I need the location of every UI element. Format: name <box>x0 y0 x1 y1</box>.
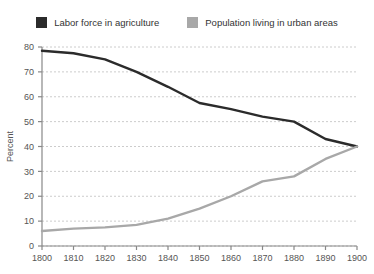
chart-container: Labor force in agriculture Population li… <box>0 0 374 274</box>
x-axis-tick-label: 1840 <box>158 253 178 263</box>
y-axis-tick-label: 20 <box>24 191 34 201</box>
x-axis-tick-label: 1860 <box>221 253 241 263</box>
data-series-line-labor-force <box>42 51 357 147</box>
y-axis-tick-label: 40 <box>24 142 34 152</box>
y-axis-tick-label: 70 <box>24 67 34 77</box>
x-axis-tick-label: 1830 <box>126 253 146 263</box>
x-axis-tick-label: 1800 <box>32 253 52 263</box>
x-axis-tick-label: 1820 <box>95 253 115 263</box>
y-axis-tick-label: 0 <box>29 241 34 251</box>
plot-area: 0102030405060708018001810182018301840185… <box>0 0 374 274</box>
y-axis-title: Percent <box>5 130 15 162</box>
x-axis-tick-label: 1850 <box>189 253 209 263</box>
y-axis-tick-label: 10 <box>24 216 34 226</box>
y-axis-tick-label: 60 <box>24 92 34 102</box>
x-axis-tick-label: 1870 <box>252 253 272 263</box>
x-axis-tick-label: 1810 <box>63 253 83 263</box>
x-axis-tick-label: 1890 <box>315 253 335 263</box>
line-chart-svg: 0102030405060708018001810182018301840185… <box>0 0 374 274</box>
y-axis-tick-label: 30 <box>24 167 34 177</box>
data-series-line-urban-population <box>42 147 357 232</box>
x-axis-tick-label: 1900 <box>347 253 367 263</box>
x-axis-tick-label: 1880 <box>284 253 304 263</box>
y-axis-tick-label: 50 <box>24 117 34 127</box>
y-axis-tick-label: 80 <box>24 42 34 52</box>
